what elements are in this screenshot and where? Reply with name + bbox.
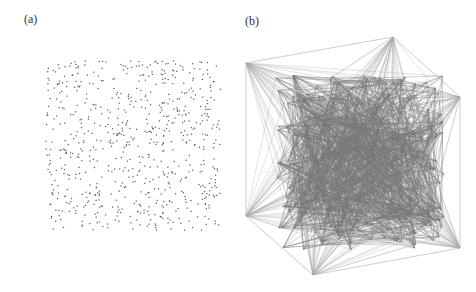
panel-b-graph <box>0 0 476 292</box>
